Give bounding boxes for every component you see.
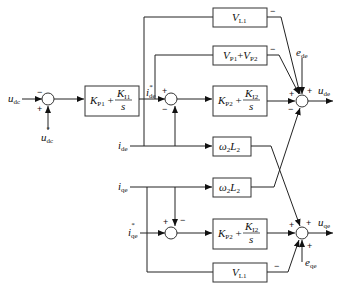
svg-text:ide: ide	[118, 139, 128, 153]
svg-text:ude: ude	[318, 84, 330, 98]
svg-text:s: s	[249, 100, 253, 112]
svg-text:*: *	[131, 221, 135, 229]
sign: +	[37, 104, 42, 114]
line	[288, 240, 299, 272]
ede-label: ede	[296, 46, 308, 60]
sum-junction-voltage	[42, 93, 54, 105]
sign: −	[37, 87, 42, 97]
svg-text:eqe: eqe	[305, 256, 317, 270]
sign: +	[307, 241, 312, 251]
sign: −	[180, 215, 185, 225]
sum-junction-q-output	[296, 227, 308, 239]
uqe-output-label: uqe	[318, 216, 330, 230]
sum-junction-d-output	[296, 95, 308, 107]
sign: +	[289, 89, 294, 99]
svg-text:uqe: uqe	[318, 216, 330, 230]
svg-text:*: *	[149, 83, 153, 91]
sign: −	[274, 261, 279, 271]
iqe-ref-label: iqe *	[128, 221, 138, 240]
line	[274, 108, 300, 187]
sign: −	[288, 104, 293, 114]
sign: +	[163, 217, 168, 227]
udc-ref-label: udc *	[41, 125, 53, 145]
svg-text:s: s	[121, 100, 125, 112]
svg-text:iqe: iqe	[118, 180, 128, 194]
ide-ref-label: ide *	[146, 83, 156, 100]
sign: +	[307, 86, 312, 96]
sum-junction-q-current	[165, 227, 177, 239]
sign: +	[306, 218, 311, 228]
sign: +	[162, 86, 167, 96]
svg-text:udc: udc	[8, 92, 20, 106]
sign: −	[270, 44, 275, 54]
control-block-diagram: udc − + udc * KP1 + KI1 s ide * VL1 VP1+…	[0, 0, 346, 291]
eqe-label: eqe	[305, 256, 317, 270]
iqe-input-label: iqe	[118, 180, 128, 194]
svg-text:udc: udc	[41, 131, 53, 145]
ude-output-label: ude	[318, 84, 330, 98]
sign: +	[289, 220, 294, 230]
ide-input-label: ide	[118, 139, 128, 153]
svg-text:*: *	[46, 125, 50, 133]
line	[271, 146, 300, 226]
sign: −	[162, 104, 167, 114]
svg-text:s: s	[249, 233, 253, 245]
sign: −	[270, 6, 275, 16]
udc-input-label: udc	[8, 92, 20, 106]
svg-text:ede: ede	[296, 46, 308, 60]
